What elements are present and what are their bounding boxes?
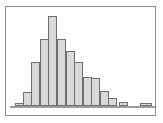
histogram-bar	[57, 39, 66, 107]
histogram-bar	[108, 98, 117, 106]
plot-frame	[5, 6, 156, 116]
histogram-bar	[48, 16, 57, 106]
histogram-figure	[0, 0, 163, 123]
histogram-bar	[74, 62, 83, 106]
plot-area	[6, 7, 155, 115]
axis-baseline	[10, 106, 155, 108]
histogram-bar	[91, 78, 100, 106]
histogram-bar	[31, 62, 40, 106]
